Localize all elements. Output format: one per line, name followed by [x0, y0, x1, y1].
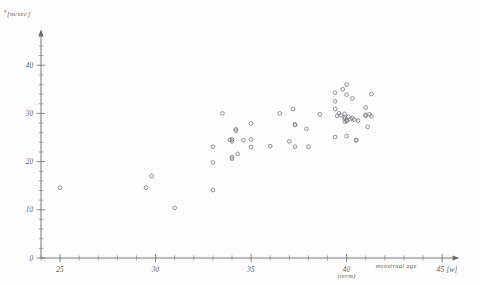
data-point [333, 100, 337, 104]
data-point [364, 106, 368, 110]
y-axis-tick-label: 10 [26, 206, 34, 214]
y-axis-label: v[m/sec] [4, 8, 30, 18]
data-point [345, 93, 349, 97]
y-axis-unit: [m/sec] [7, 10, 31, 18]
x-axis-tick-label: 45 [w] [437, 266, 458, 274]
data-point [366, 125, 370, 129]
data-point [291, 107, 295, 111]
x-axis-tick-label: 25 [56, 266, 64, 274]
data-point [318, 113, 322, 117]
data-point [356, 119, 360, 123]
data-point [173, 206, 177, 210]
x-axis-arrow-icon [453, 255, 460, 260]
data-point [345, 134, 349, 138]
y-axis-tick-label: 40 [26, 62, 34, 70]
y-axis-arrow-icon [38, 29, 43, 36]
data-point [221, 112, 225, 116]
data-point [287, 140, 291, 144]
data-point [242, 139, 246, 143]
data-point [249, 145, 253, 149]
data-point [211, 188, 215, 192]
axis-annotation: (term) [338, 272, 356, 280]
data-point [236, 152, 240, 156]
figure-canvas: 2530354045 [w]010203040(term)menstrual a… [0, 0, 480, 285]
data-point [333, 135, 337, 139]
y-axis-tick-label: 0 [30, 255, 34, 263]
data-point [341, 87, 345, 91]
data-point [144, 186, 148, 190]
data-point [293, 145, 297, 149]
data-point [278, 112, 282, 116]
data-point [150, 174, 154, 178]
data-point [211, 161, 215, 165]
data-point [58, 186, 62, 190]
y-axis-tick-label: 20 [26, 158, 34, 166]
x-axis-tick-label: 35 [246, 266, 255, 274]
scatter-plot: 2530354045 [w]010203040(term)menstrual a… [0, 0, 480, 285]
data-point [307, 145, 311, 149]
data-point [249, 122, 253, 126]
y-axis-tick-label: 30 [25, 110, 34, 118]
data-point [333, 91, 337, 95]
data-point [305, 127, 309, 131]
data-point [211, 145, 215, 149]
x-axis-tick-label: 30 [151, 266, 160, 274]
axis-annotation: menstrual age [376, 262, 417, 269]
data-point [268, 144, 272, 148]
data-point [249, 138, 253, 142]
data-point [350, 97, 354, 101]
data-point [370, 92, 374, 96]
data-point [333, 107, 337, 111]
data-point [345, 83, 349, 87]
